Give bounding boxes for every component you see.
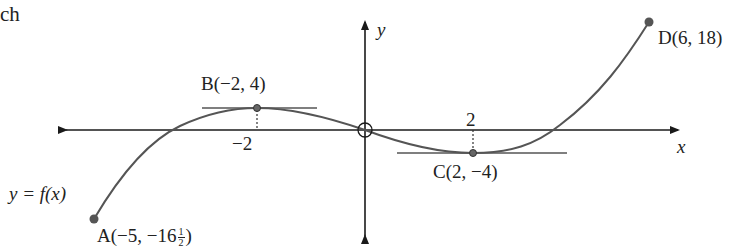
y-axis-label: y: [377, 20, 385, 39]
tick-label-2: 2: [466, 110, 476, 129]
tick-label-neg-2: −2: [232, 134, 252, 153]
graph-canvas: [0, 0, 743, 251]
point-c: [470, 150, 477, 157]
point-a-label: A(−5, −1612): [97, 226, 192, 248]
point-a-coords: (−5, −16: [111, 225, 177, 246]
point-c-label: C(2, −4): [433, 162, 498, 181]
point-b-label: B(−2, 4): [201, 74, 266, 93]
x-axis-label: x: [677, 137, 685, 156]
point-d: [645, 18, 654, 27]
point-a: [90, 215, 99, 224]
point-d-label: D(6, 18): [658, 28, 722, 47]
point-a-close: ): [186, 225, 192, 246]
point-a-name: A: [97, 225, 111, 246]
point-a-fraction: 12: [178, 227, 185, 248]
curve-label: y = f(x): [9, 184, 66, 203]
header-fragment: ch: [0, 4, 20, 25]
fraction-denominator: 2: [179, 238, 184, 248]
point-b: [254, 105, 261, 112]
function-curve: [94, 22, 649, 219]
